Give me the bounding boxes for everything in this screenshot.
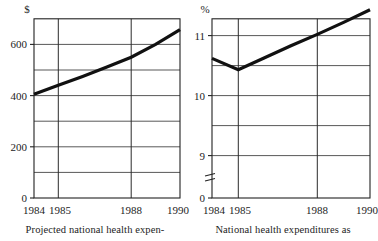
y-tick-label-0: 0 [200, 192, 206, 204]
x-tick-label-1988: 1988 [306, 204, 329, 216]
chart-panel-percent: % [188, 0, 378, 241]
y-tick-label-11: 11 [194, 30, 205, 42]
x-tick-label-1984: 1984 [203, 204, 226, 216]
vertical-gridlines [238, 19, 317, 198]
y-tick-label-600: 600 [11, 38, 28, 50]
health-expenditure-figure: $ [0, 0, 378, 241]
y-tick-label-200: 200 [11, 141, 28, 153]
x-tick-label-1990: 1990 [167, 204, 190, 216]
chart-caption-percent: National health expenditures as [188, 224, 378, 236]
y-tick-label-400: 400 [11, 90, 28, 102]
chart-caption-dollars: Projected national health expen- [0, 224, 190, 236]
plot-frame [34, 19, 180, 198]
y-tick-label-10: 10 [194, 90, 206, 102]
y-tick-marks [208, 36, 212, 198]
x-tick-label-1990: 1990 [356, 204, 378, 216]
horizontal-gridlines [212, 36, 370, 156]
y-tick-label-9: 9 [200, 150, 206, 162]
dollars-data-line [34, 30, 180, 95]
axis-break-icon [205, 174, 215, 182]
x-tick-label-1985: 1985 [49, 204, 72, 216]
x-tick-label-1985: 1985 [229, 204, 252, 216]
vertical-gridlines [58, 19, 131, 198]
y-tick-marks [30, 44, 34, 198]
dollars-line-chart: $ [0, 0, 190, 222]
percent-line-chart: % [188, 0, 378, 222]
chart-panel-dollars: $ [0, 0, 190, 241]
y-axis-unit-dollars: $ [24, 3, 30, 15]
y-axis-unit-percent: % [200, 3, 209, 15]
y-tick-label-0: 0 [22, 192, 28, 204]
horizontal-gridlines [34, 44, 180, 172]
x-tick-label-1988: 1988 [120, 204, 143, 216]
x-tick-label-1984: 1984 [23, 204, 46, 216]
